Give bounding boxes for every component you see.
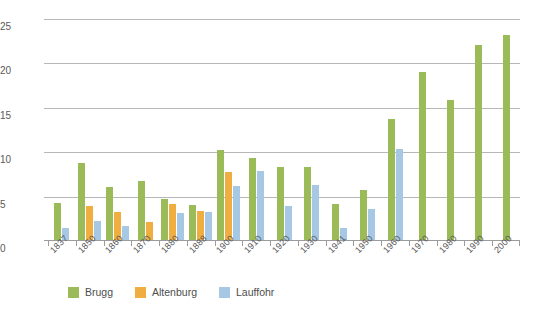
- bar-group: [242, 19, 270, 240]
- bar-brugg[interactable]: [475, 45, 482, 240]
- x-axis-label-cell: 1888: [187, 246, 215, 280]
- bar-groups: [44, 19, 520, 240]
- bar-brugg[interactable]: [447, 100, 454, 240]
- y-axis-tick-label: 0: [0, 243, 34, 254]
- bar-brugg[interactable]: [161, 199, 168, 240]
- y-axis-tick-label: 15: [0, 110, 34, 121]
- bar-group: [298, 19, 326, 240]
- x-axis-label-cell: 1860: [104, 246, 132, 280]
- legend-swatch-icon: [68, 287, 79, 298]
- legend-swatch-icon: [219, 287, 230, 298]
- bar-group: [131, 19, 159, 240]
- x-axis-label-cell: 1980: [437, 246, 465, 280]
- legend-item-brugg[interactable]: Brugg: [68, 286, 113, 298]
- bar-group: [381, 19, 409, 240]
- bar-lauffohr[interactable]: [205, 212, 212, 240]
- bar-group: [104, 19, 132, 240]
- legend-item-altenburg[interactable]: Altenburg: [135, 286, 197, 298]
- legend-item-lauffohr[interactable]: Lauffohr: [219, 286, 274, 298]
- bar-brugg[interactable]: [189, 205, 196, 240]
- x-axis-label-cell: 1837: [48, 246, 76, 280]
- bar-brugg[interactable]: [249, 158, 256, 240]
- x-axis-label-cell: 1990: [464, 246, 492, 280]
- bar-lauffohr[interactable]: [177, 213, 184, 240]
- x-axis-label-cell: 1850: [76, 246, 104, 280]
- y-axis-labels: 0510152025: [0, 19, 40, 241]
- bar-brugg[interactable]: [138, 181, 145, 240]
- x-axis-label-cell: 1870: [131, 246, 159, 280]
- chart-legend: BruggAltenburgLauffohr: [68, 286, 274, 298]
- bar-group: [270, 19, 298, 240]
- bar-brugg[interactable]: [304, 167, 311, 240]
- bar-group: [437, 19, 465, 240]
- bar-group: [464, 19, 492, 240]
- y-axis-tick-label: 10: [0, 154, 34, 165]
- plot-area: [44, 19, 520, 241]
- bar-lauffohr[interactable]: [257, 171, 264, 240]
- bar-group: [48, 19, 76, 240]
- legend-label: Brugg: [85, 286, 113, 298]
- bar-brugg[interactable]: [360, 190, 367, 240]
- y-axis-tick-label: 20: [0, 65, 34, 76]
- x-axis-labels: 1837185018601870188018881900191019201930…: [44, 246, 520, 280]
- bar-group: [76, 19, 104, 240]
- x-axis-label-cell: 1900: [215, 246, 243, 280]
- x-axis-label-cell: 1970: [409, 246, 437, 280]
- bar-brugg[interactable]: [277, 167, 284, 240]
- bar-brugg[interactable]: [78, 163, 85, 240]
- x-axis-label-cell: 1960: [381, 246, 409, 280]
- bar-group: [353, 19, 381, 240]
- y-axis-tick-label: 25: [0, 21, 34, 32]
- bar-group: [187, 19, 215, 240]
- x-axis-label-cell: 1941: [326, 246, 354, 280]
- x-axis-label-cell: 1910: [242, 246, 270, 280]
- bar-lauffohr[interactable]: [233, 186, 240, 240]
- y-axis-tick-label: 5: [0, 199, 34, 210]
- bar-group: [409, 19, 437, 240]
- x-axis-label-cell: 2000: [492, 246, 520, 280]
- bar-altenburg[interactable]: [225, 172, 232, 240]
- bar-brugg[interactable]: [217, 150, 224, 240]
- bar-chart: 0510152025 18371850186018701880188819001…: [0, 0, 539, 318]
- bar-lauffohr[interactable]: [396, 149, 403, 240]
- bar-brugg[interactable]: [503, 35, 510, 240]
- bar-brugg[interactable]: [106, 187, 113, 240]
- bar-brugg[interactable]: [419, 72, 426, 240]
- bar-group: [326, 19, 354, 240]
- x-axis-label-cell: 1930: [298, 246, 326, 280]
- x-axis-label-cell: 1920: [270, 246, 298, 280]
- legend-label: Lauffohr: [236, 286, 274, 298]
- bar-group: [492, 19, 520, 240]
- bar-group: [159, 19, 187, 240]
- legend-label: Altenburg: [152, 286, 197, 298]
- x-axis-label-cell: 1950: [353, 246, 381, 280]
- x-axis-label-cell: 1880: [159, 246, 187, 280]
- bar-brugg[interactable]: [388, 119, 395, 240]
- legend-swatch-icon: [135, 287, 146, 298]
- bar-lauffohr[interactable]: [312, 185, 319, 240]
- bar-group: [215, 19, 243, 240]
